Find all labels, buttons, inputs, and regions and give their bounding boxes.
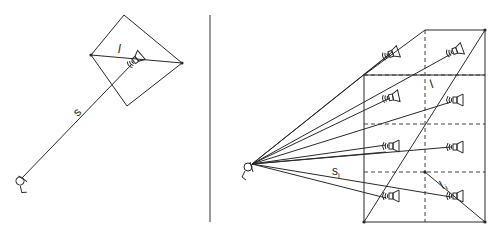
distance-subscript: i bbox=[338, 171, 340, 180]
left-panel bbox=[12, 15, 183, 195]
diagram-canvas bbox=[0, 0, 500, 234]
speaker-icon bbox=[445, 43, 465, 60]
speaker-icon bbox=[383, 140, 400, 152]
distance-label-right: si bbox=[332, 165, 340, 180]
endpoint-dot bbox=[89, 53, 92, 56]
speaker-icon bbox=[447, 94, 464, 106]
distance-line bbox=[22, 64, 132, 178]
array-diagonal bbox=[364, 30, 485, 222]
listener-ear-icon bbox=[242, 162, 253, 180]
endpoint-dot bbox=[180, 61, 183, 64]
speaker-icon bbox=[381, 90, 400, 105]
endpoint-dot bbox=[483, 220, 486, 223]
endpoint-dot bbox=[362, 220, 365, 223]
element-length-line bbox=[425, 172, 485, 222]
endpoint-dot bbox=[483, 28, 486, 31]
distance-rays bbox=[252, 52, 451, 198]
speaker-icon bbox=[447, 141, 464, 153]
speaker-icon bbox=[383, 190, 400, 202]
speaker-icon bbox=[125, 50, 145, 70]
length-label-left: l bbox=[118, 43, 121, 55]
endpoint-dot bbox=[423, 170, 426, 173]
listener-ear-icon bbox=[12, 174, 32, 195]
right-panel bbox=[242, 28, 487, 223]
